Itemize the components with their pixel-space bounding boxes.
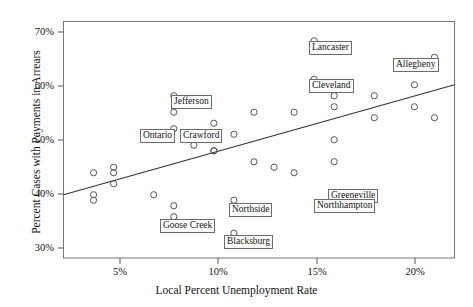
data-point — [331, 93, 337, 99]
data-point — [251, 159, 257, 165]
data-point — [411, 104, 417, 110]
data-point — [171, 109, 177, 115]
scatter-plot-figure: 70% 60% 50% 40% 30% 5% 10% 15% 20% Local… — [0, 0, 473, 307]
data-point — [291, 170, 297, 176]
x-axis-title: Local Percent Unemployment Rate — [0, 284, 473, 296]
x-tick-label-15: 15% — [295, 266, 339, 277]
data-point — [191, 142, 197, 148]
data-point — [251, 109, 257, 115]
data-point — [411, 82, 417, 88]
point-label-lancaster: Lancaster — [309, 41, 352, 55]
y-axis-ticks — [58, 32, 63, 248]
x-tick-label-10: 10% — [196, 266, 240, 277]
point-label-allegheny: Allegheny — [393, 58, 439, 72]
point-label-ontario: Ontario — [140, 129, 175, 143]
data-point — [371, 93, 377, 99]
data-point — [271, 164, 277, 170]
plot-canvas — [0, 0, 473, 307]
data-point — [111, 181, 117, 187]
data-point — [231, 131, 237, 137]
data-point — [331, 137, 337, 143]
x-tick-label-5: 5% — [98, 266, 142, 277]
data-point — [431, 115, 437, 121]
trend-line — [64, 85, 455, 195]
data-point — [331, 104, 337, 110]
data-point — [211, 120, 217, 126]
point-label-jefferson: Jefferson — [171, 95, 212, 109]
point-label-cleveland: Cleveland — [309, 79, 354, 93]
point-label-northside: Northside — [229, 203, 272, 217]
point-label-blacksburg: Blacksburg — [224, 235, 273, 249]
data-point — [331, 159, 337, 165]
data-point — [171, 203, 177, 209]
data-point — [371, 115, 377, 121]
point-label-northhampton: Northhampton — [314, 199, 375, 213]
data-point — [151, 192, 157, 198]
point-label-goose-creek: Goose Creek — [160, 219, 215, 233]
y-axis-title: Percent Cases with Payments in Arrears — [30, 22, 42, 262]
data-point — [90, 170, 96, 176]
data-point — [291, 109, 297, 115]
point-label-crawford: Crawford — [180, 129, 222, 143]
x-axis-ticks — [120, 258, 415, 264]
x-tick-label-20: 20% — [393, 266, 437, 277]
